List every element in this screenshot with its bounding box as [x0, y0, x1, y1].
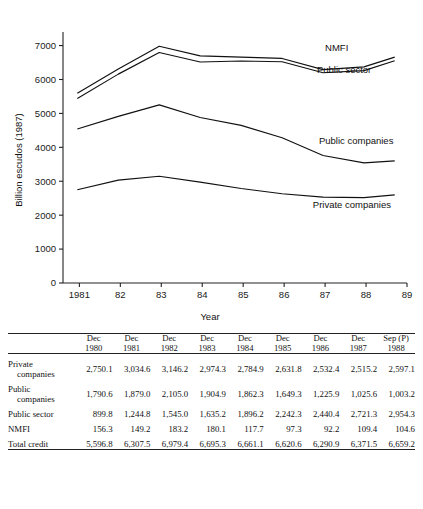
y-tick-label: 6000 [35, 74, 56, 85]
col-header-year: 1984 [226, 344, 264, 354]
y-tick-label: 7000 [35, 40, 56, 51]
table-corner-cell [8, 334, 75, 354]
row-label-line2: companies [8, 394, 75, 404]
table-cell: 5,596.8 [75, 434, 113, 450]
table-cell: 6,620.6 [264, 434, 302, 450]
table-cell: 1,862.3 [226, 379, 264, 404]
table-row: Public sector899.81,244.81,545.01,635.21… [8, 404, 415, 419]
table-cell: 6,661.1 [226, 434, 264, 450]
table-cell: 1,225.9 [302, 379, 340, 404]
table-col-header: Dec1987 [339, 334, 377, 354]
table-cell: 109.4 [339, 419, 377, 434]
data-table-container: Dec1980Dec1981Dec1982Dec1983Dec1984Dec19… [8, 333, 415, 450]
table-cell: 2,440.4 [302, 404, 340, 419]
table-cell: 2,721.3 [339, 404, 377, 419]
row-label-line1: Public sector [8, 409, 54, 419]
series-line-private-companies [77, 176, 394, 197]
table-cell: 2,784.9 [226, 354, 264, 380]
table-cell: 6,659.2 [377, 434, 415, 450]
table-cell: 6,695.3 [188, 434, 226, 450]
table-cell: 3,146.2 [150, 354, 188, 380]
col-header-year: 1986 [302, 344, 340, 354]
col-header-year: 1981 [113, 344, 151, 354]
table-cell: 1,904.9 [188, 379, 226, 404]
x-tick-label: 82 [115, 289, 126, 300]
table-col-header: Dec1984 [226, 334, 264, 354]
col-header-year: 1987 [339, 344, 377, 354]
table-cell: 6,371.5 [339, 434, 377, 450]
table-col-header: Sep (P)1988 [377, 334, 415, 354]
table-cell: 180.1 [188, 419, 226, 434]
table-cell: 183.2 [150, 419, 188, 434]
table-cell: 1,003.2 [377, 379, 415, 404]
table-row-label: Privatecompanies [8, 354, 75, 380]
table-cell: 2,597.1 [377, 354, 415, 380]
x-tick-label: 89 [402, 289, 413, 300]
table-cell: 2,532.4 [302, 354, 340, 380]
table-row-label: Public sector [8, 404, 75, 419]
row-label-line2: companies [8, 369, 75, 379]
table-cell: 2,105.0 [150, 379, 188, 404]
series-label-public-sector: Public sector [317, 64, 371, 75]
row-label-line1: Private [8, 359, 33, 369]
x-tick-label: 86 [279, 289, 290, 300]
table-head: Dec1980Dec1981Dec1982Dec1983Dec1984Dec19… [8, 334, 415, 354]
table-cell: 6,307.5 [113, 434, 151, 450]
table-row-label: NMFI [8, 419, 75, 434]
table-cell: 899.8 [75, 404, 113, 419]
x-tick-label: 1981 [69, 289, 90, 300]
table-header-row: Dec1980Dec1981Dec1982Dec1983Dec1984Dec19… [8, 334, 415, 354]
y-axis-title: Billion escudos (1987) [13, 113, 24, 206]
table-cell: 117.7 [226, 419, 264, 434]
y-tick-label: 5000 [35, 108, 56, 119]
table-cell: 1,879.0 [113, 379, 151, 404]
table-col-header: Dec1983 [188, 334, 226, 354]
x-tick-label: 85 [238, 289, 249, 300]
series-line-public-sector [77, 52, 394, 98]
chart-canvas: 0100020003000400050006000700019818283848… [0, 0, 423, 330]
row-label-line1: Total credit [8, 439, 48, 449]
series-label-nmfi: NMFI [325, 42, 348, 53]
table-cell: 149.2 [113, 419, 151, 434]
table-cell: 1,025.6 [339, 379, 377, 404]
y-tick-label: 3000 [35, 176, 56, 187]
table-cell: 1,896.2 [226, 404, 264, 419]
series-label-public-companies: Public companies [319, 135, 394, 146]
y-tick-label: 4000 [35, 142, 56, 153]
table-col-header: Dec1980 [75, 334, 113, 354]
table-cell: 1,790.6 [75, 379, 113, 404]
x-tick-label: 83 [156, 289, 167, 300]
table-row: Publiccompanies1,790.61,879.02,105.01,90… [8, 379, 415, 404]
x-tick-label: 84 [197, 289, 208, 300]
series-label-private-companies: Private companies [313, 199, 391, 210]
table-cell: 2,631.8 [264, 354, 302, 380]
table-cell: 2,750.1 [75, 354, 113, 380]
table-col-header: Dec1986 [302, 334, 340, 354]
y-tick-label: 2000 [35, 210, 56, 221]
col-header-year: 1983 [188, 344, 226, 354]
table-col-header: Dec1981 [113, 334, 151, 354]
col-header-year: 1980 [75, 344, 113, 354]
table-row-label: Total credit [8, 434, 75, 450]
table-cell: 92.2 [302, 419, 340, 434]
col-header-year: 1988 [377, 344, 415, 354]
table-row-label: Publiccompanies [8, 379, 75, 404]
credit-data-table: Dec1980Dec1981Dec1982Dec1983Dec1984Dec19… [8, 333, 415, 450]
table-cell: 2,242.3 [264, 404, 302, 419]
table-cell: 104.6 [377, 419, 415, 434]
table-cell: 1,649.3 [264, 379, 302, 404]
table-cell: 2,974.3 [188, 354, 226, 380]
row-label-line1: Public [8, 384, 30, 394]
table-cell: 97.3 [264, 419, 302, 434]
table-col-header: Dec1985 [264, 334, 302, 354]
x-axis-title: Year [200, 311, 219, 322]
table-cell: 156.3 [75, 419, 113, 434]
table-row: Privatecompanies2,750.13,034.63,146.22,9… [8, 354, 415, 380]
table-cell: 1,545.0 [150, 404, 188, 419]
table-cell: 1,244.8 [113, 404, 151, 419]
table-row: NMFI156.3149.2183.2180.1117.797.392.2109… [8, 419, 415, 434]
table-cell: 3,034.6 [113, 354, 151, 380]
table-col-header: Dec1982 [150, 334, 188, 354]
table-cell: 6,290.9 [302, 434, 340, 450]
row-label-line1: NMFI [8, 424, 30, 434]
